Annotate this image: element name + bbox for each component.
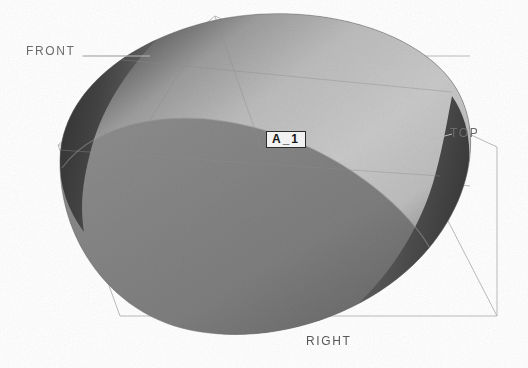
orientation-label-front: FRONT: [26, 44, 75, 58]
cad-viewport[interactable]: FRONT TOP RIGHT A_1: [0, 0, 528, 368]
datum-label-a1: A_1: [266, 131, 306, 148]
cad-scene: [0, 0, 528, 368]
orientation-label-right: RIGHT: [306, 334, 351, 348]
scan-grain-overlay: [0, 0, 528, 368]
orientation-label-top: TOP: [450, 126, 479, 140]
